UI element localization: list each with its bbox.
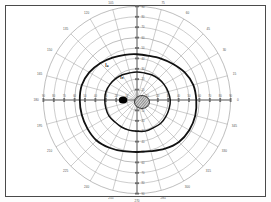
svg-text:75: 75 <box>161 1 165 5</box>
svg-text:345: 345 <box>232 124 237 128</box>
svg-text:I₄: I₄ <box>105 63 108 68</box>
svg-text:60: 60 <box>142 161 145 165</box>
svg-text:90: 90 <box>229 94 232 98</box>
svg-text:165: 165 <box>37 72 42 76</box>
svg-text:150: 150 <box>47 48 52 52</box>
svg-text:195: 195 <box>37 124 42 128</box>
svg-text:80: 80 <box>52 94 55 98</box>
svg-text:255: 255 <box>108 196 113 200</box>
svg-text:240: 240 <box>84 185 89 189</box>
svg-text:120: 120 <box>84 11 89 15</box>
svg-text:300: 300 <box>185 185 190 189</box>
svg-text:225: 225 <box>63 169 68 173</box>
svg-text:30: 30 <box>223 48 227 52</box>
svg-text:270: 270 <box>134 199 139 202</box>
svg-text:90: 90 <box>42 94 45 98</box>
svg-text:70: 70 <box>208 94 211 98</box>
svg-text:15: 15 <box>233 72 237 76</box>
polar-chart-svg: 1020304050607080901020304050607080901020… <box>0 0 271 202</box>
svg-text:45: 45 <box>207 27 211 31</box>
svg-text:I₃: I₃ <box>120 75 123 80</box>
svg-text:60: 60 <box>198 94 201 98</box>
svg-text:20: 20 <box>156 94 159 98</box>
svg-text:80: 80 <box>142 181 145 185</box>
svg-text:285: 285 <box>161 196 166 200</box>
svg-text:60: 60 <box>73 94 76 98</box>
svg-text:60: 60 <box>186 11 190 15</box>
svg-text:10: 10 <box>142 88 145 92</box>
svg-text:135: 135 <box>63 27 68 31</box>
svg-text:30: 30 <box>142 67 145 71</box>
svg-text:0: 0 <box>237 98 239 102</box>
svg-text:40: 40 <box>94 94 97 98</box>
svg-text:90: 90 <box>142 192 145 196</box>
svg-text:10: 10 <box>142 109 145 113</box>
svg-text:50: 50 <box>84 94 87 98</box>
svg-text:90: 90 <box>135 0 139 1</box>
svg-text:40: 40 <box>142 57 145 61</box>
svg-text:315: 315 <box>206 169 211 173</box>
svg-text:40: 40 <box>177 94 180 98</box>
svg-text:330: 330 <box>222 149 227 153</box>
svg-text:40: 40 <box>142 140 145 144</box>
svg-text:50: 50 <box>188 94 191 98</box>
svg-text:80: 80 <box>219 94 222 98</box>
svg-text:210: 210 <box>47 149 52 153</box>
svg-text:105: 105 <box>108 1 113 5</box>
svg-text:70: 70 <box>142 171 145 175</box>
svg-text:70: 70 <box>63 94 66 98</box>
chart-frame: 1020304050607080901020304050607080901020… <box>0 0 271 202</box>
visual-field-plot: 1020304050607080901020304050607080901020… <box>0 0 271 202</box>
svg-text:50: 50 <box>142 46 145 50</box>
svg-text:180: 180 <box>34 98 39 102</box>
